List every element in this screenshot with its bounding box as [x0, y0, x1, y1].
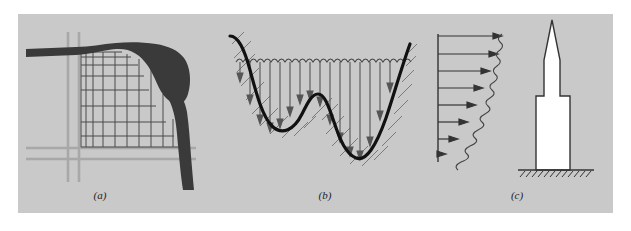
- panel-b-drawing: [218, 14, 418, 213]
- ground-hatching: [520, 171, 591, 177]
- panel-c-drawing: [418, 14, 613, 213]
- building-silhouette: [536, 20, 570, 170]
- panel-a-caption: (a): [78, 189, 122, 201]
- water-surface-wavy-line: [236, 59, 411, 62]
- road-line-horizontal: [26, 148, 196, 159]
- panel-b-channel-cross-section: [218, 14, 418, 213]
- panel-b-caption: (b): [303, 189, 347, 201]
- panel-c-wind-profile-and-building: [418, 14, 613, 213]
- figure-container: (a): [0, 0, 631, 231]
- velocity-arrows: [437, 33, 502, 157]
- depth-arrows: [237, 62, 393, 160]
- panel-c-caption: (c): [495, 189, 539, 201]
- panel-a-drawing: [18, 14, 218, 213]
- panel-a-river-plan-view: [18, 14, 218, 213]
